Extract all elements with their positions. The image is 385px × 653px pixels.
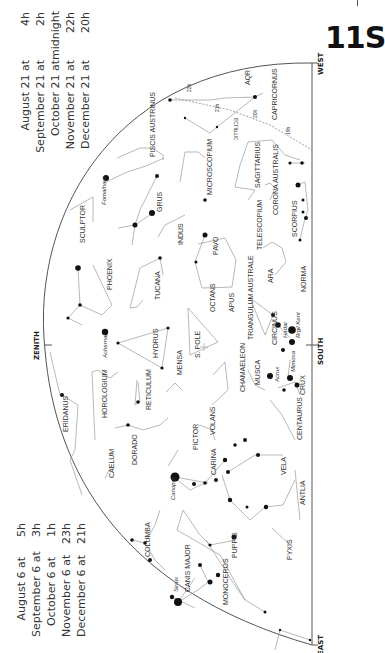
svg-text:PYXIS: PYXIS [286,539,293,560]
svg-text:Sirius: Sirius [173,577,179,592]
svg-text:TELESCOPIUM: TELESCOPIUM [256,200,263,250]
svg-text:RETICULUM: RETICULUM [145,369,152,410]
svg-text:PAVO: PAVO [212,236,219,255]
svg-text:ANTLIA: ANTLIA [299,480,306,505]
svg-text:CRUX: CRUX [299,375,306,395]
svg-text:TUCANA: TUCANA [154,271,161,300]
svg-text:PISCIS AUSTRINUS: PISCIS AUSTRINUS [149,92,156,157]
svg-text:VOLANS: VOLANS [209,406,216,435]
star-labels: Fomalhaut Achernar Hadar Rigil Kent Acru… [101,176,301,592]
svg-text:COLUMBA: COLUMBA [144,522,151,557]
east-label: EAST [317,635,325,653]
svg-text:HOROLOGIUM: HOROLOGIUM [101,369,108,418]
svg-text:TRIANGULUM AUSTRALE: TRIANGULUM AUSTRALE [247,255,254,340]
svg-text:Canopus: Canopus [170,476,176,500]
svg-text:MENSA: MENSA [176,350,183,375]
west-label: WEST [317,52,325,75]
svg-text:Fomalhaut: Fomalhaut [101,176,107,205]
zenith-label: ZENITH [33,331,41,360]
ecliptic-label: ECLIPTIC [233,118,239,141]
svg-text:NORMA: NORMA [300,266,307,292]
svg-text:CARINA: CARINA [210,448,217,475]
svg-text:CIRCINUS: CIRCINUS [271,311,278,345]
svg-text:MUSCA: MUSCA [254,359,261,385]
svg-text:SAGITTARIUS: SAGITTARIUS [254,142,261,188]
svg-text:VELA: VELA [280,457,287,475]
svg-text:DORADO: DORADO [131,434,138,465]
svg-text:MICROSCOPIUM: MICROSCOPIUM [206,139,213,195]
svg-text:CAPRICORNUS: CAPRICORNUS [271,68,278,120]
svg-text:PHOENIX: PHOENIX [106,258,113,290]
ecliptic-mark: 19h [285,126,291,135]
south-pole-label: S. POLE [194,330,201,358]
svg-text:OCTANS: OCTANS [209,283,216,312]
svg-text:AQR: AQR [244,70,252,85]
svg-text:Hadar: Hadar [282,321,288,338]
svg-text:CAELUM: CAELUM [108,449,115,478]
svg-text:ERIDANUS: ERIDANUS [62,395,69,432]
svg-text:PICTOR: PICTOR [192,424,199,450]
svg-text:GRUS: GRUS [156,191,163,212]
svg-text:Acrux: Acrux [274,366,280,383]
svg-text:APUS: APUS [228,293,235,312]
ecliptic-mark: 21h [214,103,220,112]
svg-text:CORONA AUSTRALIS: CORONA AUSTRALIS [272,144,279,215]
svg-text:SCORPIUS: SCORPIUS [291,200,298,237]
ecliptic-mark: 22h [186,83,192,92]
svg-text:ARA: ARA [267,268,274,283]
constellation-labels: AQR CAPRICORNUS PISCIS AUSTRINUS MICROSC… [62,68,307,605]
svg-text:INDUS: INDUS [177,223,184,245]
svg-text:CHAMAELEON: CHAMAELEON [239,343,246,392]
south-label: SOUTH [317,338,325,365]
svg-text:CANIS MAJOR: CANIS MAJOR [184,544,191,592]
svg-text:HYDRUS: HYDRUS [152,328,159,358]
svg-text:PUPPIS: PUPPIS [231,532,238,558]
svg-text:Achernar: Achernar [102,333,108,359]
ecliptic-mark: 20h [252,109,258,118]
svg-text:Mimosa: Mimosa [290,350,296,372]
svg-text:Rigil Kent: Rigil Kent [295,312,301,338]
svg-text:MONOCEROS: MONOCEROS [222,558,229,605]
svg-text:CENTAURUS: CENTAURUS [296,397,303,440]
svg-text:SCULPTOR: SCULPTOR [79,205,86,243]
